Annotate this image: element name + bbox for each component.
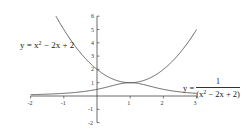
x-tick-label: 3	[194, 100, 197, 106]
y-tick-label: 2	[91, 66, 94, 72]
axes	[31, 16, 197, 122]
x-tick-label: 2	[160, 100, 163, 106]
y-tick-label: 1	[91, 80, 94, 86]
parabola-curve	[56, 16, 197, 83]
y-tick-label: 5	[91, 27, 94, 33]
y-tick-label: -1	[88, 106, 93, 112]
y-tick-label: 4	[91, 40, 94, 46]
reciprocal-curve	[31, 83, 197, 95]
x-tick-label: -1	[61, 100, 66, 106]
eq1-text: y = x	[20, 40, 39, 50]
annotation-parabola: y = x2 − 2x + 2	[20, 40, 74, 50]
y-tick-label: -2	[88, 120, 93, 126]
y-tick-label: 6	[91, 13, 94, 19]
curves	[31, 16, 197, 94]
x-tick-label: -2	[28, 100, 33, 106]
fraction-numerator: 1	[216, 78, 220, 87]
y-tick-label: 3	[91, 53, 94, 59]
x-tick-label: 1	[127, 100, 130, 106]
den-part-b: − 2x + 2)	[206, 89, 240, 99]
chart-plot-area	[0, 0, 247, 131]
fraction: 1 (x2 − 2x + 2)	[196, 78, 240, 99]
fraction-denominator: (x2 − 2x + 2)	[196, 87, 240, 99]
annotation-reciprocal: y = 1 (x2 − 2x + 2)	[183, 78, 240, 99]
eq2-prefix: y =	[183, 84, 194, 93]
eq1-text-rest: − 2x + 2	[42, 40, 75, 50]
